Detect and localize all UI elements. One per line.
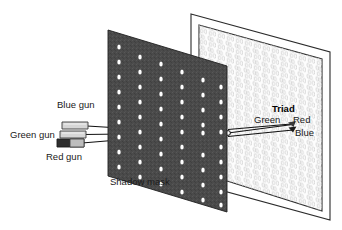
label-shadow-mask: Shadow mask [110,176,170,187]
green-gun-body[interactable] [60,131,86,138]
label-triad-red: Red [293,114,310,125]
label-blue-gun: Blue gun [57,99,95,110]
cr-shadow-mask-diagram: Blue gun Green gun Red gun Shadow mask T… [0,0,342,230]
label-green-gun: Green gun [10,129,55,140]
diagram-canvas: Blue gun Green gun Red gun Shadow mask T… [0,0,342,230]
label-triad: Triad [272,103,295,114]
electron-gun-assembly [57,122,88,147]
label-triad-blue: Blue [295,127,314,138]
red-gun-cap [70,139,84,147]
blue-gun-body[interactable] [62,122,88,129]
label-red-gun: Red gun [46,151,82,162]
label-triad-green: Green [254,114,280,125]
